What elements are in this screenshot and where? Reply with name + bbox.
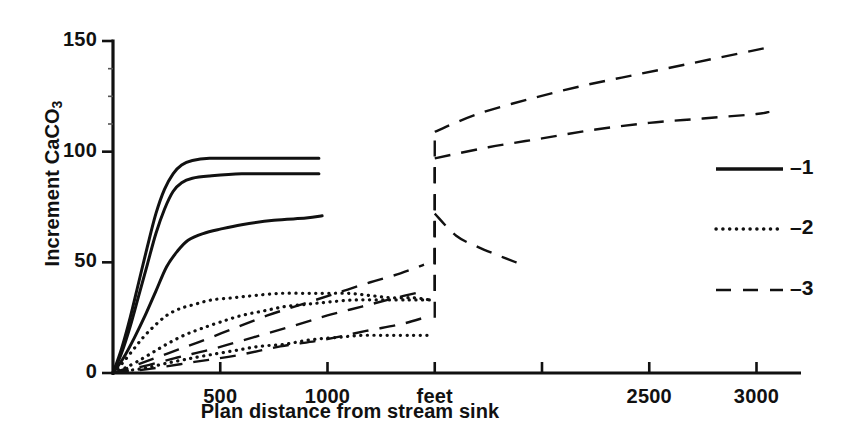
data-series-group [113, 48, 769, 373]
series-line-post-3c [435, 214, 527, 265]
series-line-2b [113, 300, 430, 373]
series-line-3b [113, 291, 424, 373]
y-axis-title-subscript: 3 [49, 101, 65, 109]
chart-plot-area [0, 0, 858, 434]
legend-label-3: –3 [790, 276, 813, 300]
axes-group [102, 41, 799, 373]
series-line-post-3a [435, 48, 767, 132]
series-line-1a [113, 158, 319, 373]
legend-symbols-group [716, 169, 783, 290]
x-tick-label-3000: 3000 [687, 385, 827, 408]
y-axis-title: Increment CaCO3 [41, 34, 64, 334]
series-line-2c [113, 335, 433, 373]
series-line-1c [113, 216, 322, 373]
x-axis-title: Plan distance from stream sink [0, 400, 700, 423]
legend-label-1: –1 [790, 155, 813, 179]
legend-label-2: –2 [790, 215, 813, 239]
y-axis-title-text: Increment CaCO [41, 108, 63, 266]
chart-figure: 0501001505001000feet25003000 Plan distan… [0, 0, 858, 434]
series-line-post-3b [435, 112, 770, 158]
y-tick-label-0: 0 [20, 360, 97, 383]
